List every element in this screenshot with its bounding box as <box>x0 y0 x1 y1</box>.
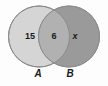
set-label-b: B <box>60 69 80 79</box>
venn-diagram-figure: 15 6 x A B <box>0 0 108 86</box>
set-label-a: A <box>28 69 48 79</box>
region-value-b-only: x <box>64 32 86 41</box>
venn-diagram-graphic <box>0 0 108 86</box>
region-value-a-only: 15 <box>16 32 44 41</box>
region-value-intersection: 6 <box>44 32 64 41</box>
